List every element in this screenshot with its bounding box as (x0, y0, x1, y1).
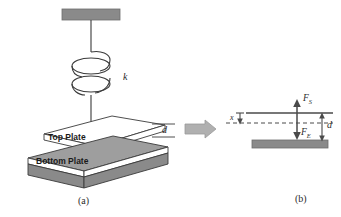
panel-b-bottom-plate-bar (252, 140, 328, 148)
spring-force-subscript: S (309, 98, 312, 105)
spring-coil (72, 51, 110, 95)
gap-label-b: d (327, 120, 332, 130)
caption-a: (a) (78, 196, 89, 206)
figure-canvas: k Top Plate Bottom Plate d (a) FS FE x d… (0, 0, 341, 217)
gap-d-dimension-arrow (319, 113, 325, 142)
spring-force-label: FS (303, 94, 312, 105)
panel-b-graphics (226, 99, 333, 148)
caption-b: (b) (295, 194, 307, 204)
electrostatic-force-label: FE (301, 128, 311, 139)
top-plate-label: Top Plate (48, 133, 86, 142)
gap-label-a: d (162, 125, 167, 135)
ceiling-anchor-block (62, 9, 120, 20)
electrostatic-force-subscript: E (307, 132, 311, 139)
force-double-arrow (293, 99, 301, 140)
transition-arrow-icon (185, 120, 216, 138)
spring-constant-label: k (123, 72, 127, 82)
displacement-label: x (230, 114, 234, 122)
figure-svg (0, 0, 341, 217)
bottom-plate-label: Bottom Plate (36, 157, 88, 166)
